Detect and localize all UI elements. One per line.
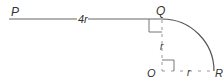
label-o: O xyxy=(147,67,156,79)
right-angle-marker-o xyxy=(162,60,174,71)
arc-qr xyxy=(162,19,214,71)
label-p: P xyxy=(11,5,19,19)
right-angle-marker-q xyxy=(149,19,162,32)
label-4r: 4r xyxy=(78,13,89,25)
diagram-canvas: P 4r Q r O r R xyxy=(0,0,223,81)
label-q: Q xyxy=(156,4,165,18)
label-or-r: r xyxy=(187,67,191,78)
label-qo-r: r xyxy=(160,41,164,52)
label-r: R xyxy=(215,67,223,79)
